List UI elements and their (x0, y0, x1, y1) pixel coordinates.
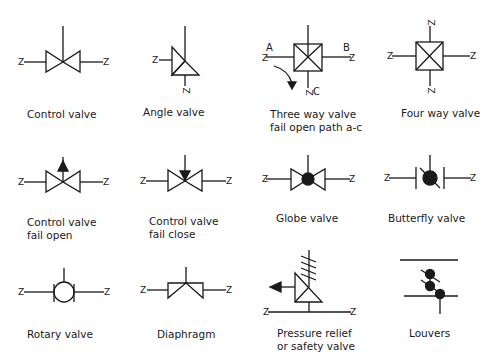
globe-valve-symbol (266, 155, 350, 190)
angle-valve-symbol (159, 26, 199, 86)
pipe-end-mark: Z (262, 175, 268, 184)
butterfly-valve-symbol (389, 155, 471, 189)
pipe-end-mark: Z (226, 177, 232, 186)
pipe-end-mark: Z (262, 54, 268, 63)
pipe-end-mark: Z (18, 178, 24, 187)
pipe-end-mark: Z (104, 288, 110, 297)
pipe-end-mark: Z (349, 54, 355, 63)
label-butterfly-valve: Butterfly valve (388, 212, 465, 225)
label-four-way-valve: Four way valve (401, 107, 480, 120)
pipe-end-mark: Z (350, 308, 356, 317)
rotary-valve-symbol (24, 268, 104, 302)
pipe-end-mark: Z (226, 286, 232, 295)
pipe-end-mark: Z (140, 286, 146, 295)
port-label-b: B (343, 43, 350, 52)
control-valve-fail-open-symbol (24, 157, 103, 192)
label-control-valve-fail-open: Control valve fail open (27, 216, 97, 242)
control-valve-fail-close-symbol (146, 155, 226, 191)
pipe-end-mark: Z (263, 308, 269, 317)
port-label-a: A (266, 43, 273, 52)
pipe-end-mark: Z (349, 175, 355, 184)
label-rotary-valve: Rotary valve (27, 328, 93, 341)
pipe-end-mark: Z (304, 89, 313, 95)
pipe-end-mark: Z (152, 56, 158, 65)
control-valve-symbol (24, 26, 103, 72)
pipe-end-mark: Z (384, 174, 390, 183)
pipe-end-mark: Z (18, 288, 24, 297)
label-globe-valve: Globe valve (276, 212, 338, 225)
valve-symbols-diagram (0, 0, 494, 361)
pipe-end-mark: Z (426, 87, 435, 93)
pipe-end-mark: Z (18, 58, 24, 67)
four-way-valve-symbol (392, 26, 470, 86)
pipe-end-mark: Z (426, 19, 435, 25)
label-control-valve: Control valve (27, 108, 97, 121)
port-label-c: C (313, 87, 320, 96)
pipe-end-mark: Z (181, 87, 190, 93)
label-pressure-relief-valve: Pressure relief or safety valve (277, 327, 355, 353)
pipe-end-mark: Z (103, 178, 109, 187)
pipe-end-mark: Z (470, 174, 476, 183)
pipe-end-mark: Z (470, 52, 476, 61)
three-way-valve-symbol (266, 25, 351, 89)
pressure-relief-valve-symbol (268, 250, 351, 312)
pipe-end-mark: Z (103, 58, 109, 67)
label-control-valve-fail-close: Control valve fail close (149, 215, 219, 241)
label-three-way-valve: Three way valve fail open path a-c (270, 108, 362, 134)
label-diaphragm: Diaphragm (157, 328, 215, 341)
label-angle-valve: Angle valve (143, 106, 204, 119)
louvers-symbol (400, 260, 458, 314)
label-louvers: Louvers (409, 327, 450, 340)
pipe-end-mark: Z (140, 177, 146, 186)
pipe-end-mark: Z (387, 52, 393, 61)
diaphragm-symbol (147, 267, 226, 298)
